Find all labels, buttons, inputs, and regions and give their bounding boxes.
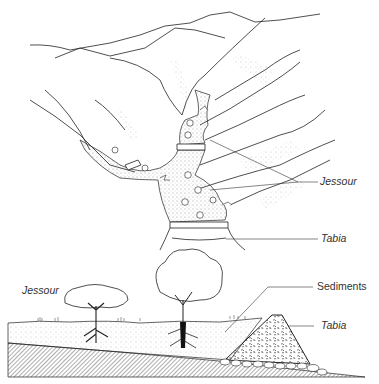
label-jessour-top: Jessour [320, 175, 357, 187]
label-sediments: Sediments [317, 280, 367, 292]
label-jessour-section: Jessour [22, 284, 59, 296]
label-tabia-section: Tabia [321, 319, 346, 331]
label-tabia-top: Tabia [321, 232, 346, 244]
grass-tufts [38, 315, 245, 321]
